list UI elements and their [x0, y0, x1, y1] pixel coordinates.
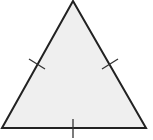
triangle-figure [0, 0, 153, 140]
diagram-canvas [0, 0, 153, 140]
equilateral-triangle [2, 1, 146, 128]
